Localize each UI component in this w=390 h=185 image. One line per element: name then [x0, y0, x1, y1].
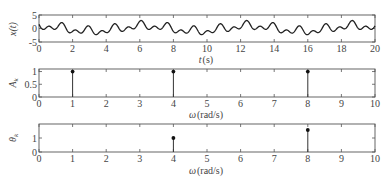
chart-figure: 02468101214161820-505 x(t) t(s) 01234567… — [0, 0, 390, 185]
x-tick-label: 2 — [70, 43, 75, 54]
signal-line — [39, 21, 375, 35]
x-tick-label: 3 — [137, 153, 142, 164]
stem-marker — [71, 70, 75, 74]
x-tick-label: 9 — [339, 98, 344, 109]
x-tick-label: 6 — [238, 98, 243, 109]
x-tick-label: 4 — [171, 153, 176, 164]
phase-spectrum-panel: 01234567891001 — [32, 124, 380, 164]
stem-marker — [306, 128, 310, 132]
x-tick-label: 8 — [305, 98, 310, 109]
x-tick-label: 1 — [70, 153, 75, 164]
x-tick-label: 10 — [370, 153, 380, 164]
y-tick-label: -5 — [29, 37, 37, 48]
x-tick-label: 10 — [202, 43, 212, 54]
x-tick-label: 2 — [104, 153, 109, 164]
y-tick-label: 0 — [32, 92, 37, 103]
x-tick-label: 4 — [171, 98, 176, 109]
x-tick-label: 0 — [37, 43, 42, 54]
time-ylabel: x(t) — [7, 21, 19, 37]
phase-xlabel: ω(rad/s) — [189, 165, 223, 177]
plot-frame — [39, 124, 375, 152]
x-tick-label: 1 — [70, 98, 75, 109]
y-tick-label: 1 — [32, 133, 37, 144]
x-tick-label: 8 — [305, 153, 310, 164]
x-tick-label: 16 — [303, 43, 313, 54]
phase-ylabel: θk — [7, 133, 20, 142]
x-tick-label: 20 — [370, 43, 380, 54]
y-tick-label: 5 — [32, 10, 37, 21]
x-tick-label: 9 — [339, 153, 344, 164]
stem-marker — [306, 70, 310, 74]
y-tick-label: 0 — [32, 23, 37, 34]
x-tick-label: 10 — [370, 98, 380, 109]
stem-marker — [172, 136, 176, 140]
plot-frame — [39, 69, 375, 97]
x-tick-label: 2 — [104, 98, 109, 109]
x-tick-label: 7 — [272, 153, 277, 164]
amplitude-spectrum-panel: 01234567891000.51 — [25, 66, 381, 109]
plot-frame — [39, 15, 375, 42]
time-xlabel: t(s) — [199, 54, 213, 66]
x-tick-label: 0 — [37, 153, 42, 164]
stem-marker — [172, 70, 176, 74]
x-tick-label: 6 — [238, 153, 243, 164]
y-tick-label: 0.5 — [25, 79, 38, 90]
amplitude-ylabel: Ak — [7, 78, 20, 89]
x-tick-label: 8 — [171, 43, 176, 54]
x-tick-label: 18 — [336, 43, 346, 54]
time-signal-panel: 02468101214161820-505 — [29, 10, 380, 55]
x-tick-label: 7 — [272, 98, 277, 109]
x-tick-label: 6 — [137, 43, 142, 54]
x-tick-label: 4 — [104, 43, 109, 54]
x-tick-label: 5 — [205, 153, 210, 164]
x-tick-label: 12 — [236, 43, 246, 54]
x-tick-label: 3 — [137, 98, 142, 109]
x-tick-label: 14 — [269, 43, 279, 54]
x-tick-label: 5 — [205, 98, 210, 109]
amplitude-xlabel: ω(rad/s) — [189, 109, 223, 121]
y-tick-label: 1 — [32, 66, 37, 77]
x-tick-label: 0 — [37, 98, 42, 109]
y-tick-label: 0 — [32, 147, 37, 158]
